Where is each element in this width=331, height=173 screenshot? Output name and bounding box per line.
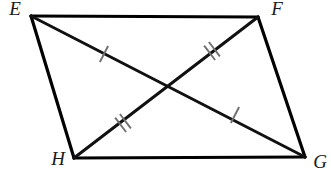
- vertex-label-E: E: [8, 0, 21, 19]
- diagonal-FH: [74, 17, 258, 158]
- geometry-figure-canvas: E F G H: [0, 0, 331, 173]
- vertex-label-F: F: [270, 0, 283, 19]
- edge-HE: [31, 16, 74, 158]
- parallelogram-diagram: E F G H: [0, 0, 331, 173]
- vertex-label-G: G: [313, 151, 327, 172]
- edge-EF: [31, 16, 258, 17]
- vertex-label-H: H: [50, 148, 66, 169]
- edge-GH: [74, 157, 305, 158]
